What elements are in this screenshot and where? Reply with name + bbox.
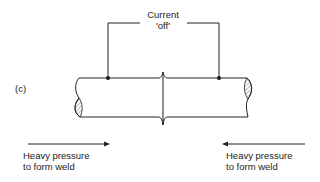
current-label-line2: 'off' — [136, 20, 190, 31]
left-pressure-line1: Heavy pressure — [23, 150, 90, 161]
right-bar — [168, 78, 252, 117]
current-label-line1: Current — [136, 9, 190, 20]
left-bar — [75, 78, 158, 117]
right-pressure-arrow — [222, 142, 305, 147]
left-bar-section-hatch — [75, 98, 82, 117]
right-pressure-line2: to form weld — [226, 161, 293, 172]
left-pressure-line2: to form weld — [23, 161, 90, 172]
circuit-wire — [108, 23, 219, 78]
right-bar-section-hatch — [244, 78, 251, 99]
right-pressure-line1: Heavy pressure — [226, 150, 293, 161]
current-label: Current 'off' — [136, 9, 190, 31]
panel-label: (c) — [15, 83, 26, 94]
right-pressure-label: Heavy pressure to form weld — [226, 150, 293, 172]
weld-junction — [158, 72, 168, 125]
left-pressure-arrow — [28, 142, 110, 147]
left-pressure-label: Heavy pressure to form weld — [23, 150, 90, 172]
